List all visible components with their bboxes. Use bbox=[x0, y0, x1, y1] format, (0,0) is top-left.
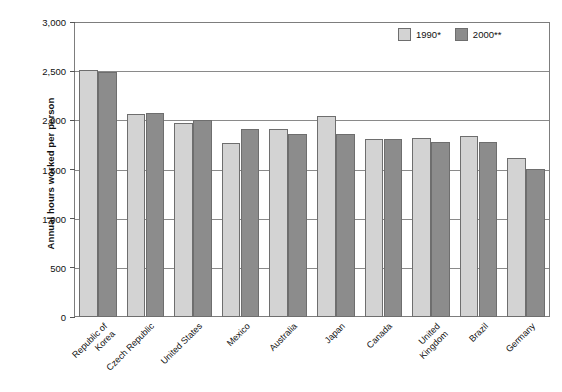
bar-group bbox=[122, 22, 170, 317]
y-tick-label: 0 bbox=[6, 312, 66, 323]
bar-1990-9[interactable] bbox=[507, 158, 526, 317]
bar-1990-6[interactable] bbox=[365, 139, 384, 317]
legend-item-1990[interactable]: 1990* bbox=[398, 28, 441, 41]
bar-group bbox=[360, 22, 408, 317]
bar-2000-4[interactable] bbox=[288, 134, 307, 317]
bar-2000-7[interactable] bbox=[431, 142, 450, 317]
legend-swatch-1990-icon bbox=[398, 28, 411, 41]
legend-swatch-2000-icon bbox=[455, 28, 468, 41]
bar-1990-2[interactable] bbox=[174, 123, 193, 317]
bars-layer bbox=[74, 22, 550, 317]
bar-group bbox=[264, 22, 312, 317]
y-tick-label: 2,500 bbox=[6, 66, 66, 77]
y-tick-label: 2,000 bbox=[6, 115, 66, 126]
bar-1990-5[interactable] bbox=[317, 116, 336, 317]
bar-2000-5[interactable] bbox=[336, 134, 355, 317]
bar-2000-3[interactable] bbox=[241, 129, 260, 317]
x-axis-labels: Republic of KoreaCzech RepublicUnited St… bbox=[74, 317, 550, 392]
bar-1990-3[interactable] bbox=[222, 143, 241, 317]
bar-1990-1[interactable] bbox=[127, 114, 146, 317]
x-axis-label: Germany bbox=[452, 321, 537, 392]
bar-2000-9[interactable] bbox=[526, 169, 545, 317]
bar-2000-6[interactable] bbox=[384, 139, 403, 317]
bar-group bbox=[169, 22, 217, 317]
y-tick-label: 3,000 bbox=[6, 17, 66, 28]
bar-1990-7[interactable] bbox=[412, 138, 431, 317]
bar-group bbox=[455, 22, 503, 317]
bar-group bbox=[407, 22, 455, 317]
y-tick-label: 1,500 bbox=[6, 164, 66, 175]
bar-group bbox=[312, 22, 360, 317]
y-tick-label: 500 bbox=[6, 262, 66, 273]
bar-1990-4[interactable] bbox=[269, 129, 288, 317]
legend-label-1990: 1990* bbox=[416, 29, 441, 40]
bar-group bbox=[217, 22, 265, 317]
bar-2000-2[interactable] bbox=[193, 120, 212, 317]
bar-1990-8[interactable] bbox=[460, 136, 479, 317]
y-tick-label: 1,000 bbox=[6, 213, 66, 224]
bar-chart: Annual hours worked per person 05001,000… bbox=[0, 0, 562, 392]
legend-item-2000[interactable]: 2000** bbox=[455, 28, 502, 41]
chart-legend: 1990* 2000** bbox=[398, 28, 501, 41]
bar-2000-0[interactable] bbox=[98, 72, 117, 317]
bar-group bbox=[74, 22, 122, 317]
bar-group bbox=[502, 22, 550, 317]
bar-2000-8[interactable] bbox=[479, 142, 498, 317]
bar-1990-0[interactable] bbox=[79, 70, 98, 317]
legend-label-2000: 2000** bbox=[473, 29, 502, 40]
bar-2000-1[interactable] bbox=[146, 113, 165, 317]
